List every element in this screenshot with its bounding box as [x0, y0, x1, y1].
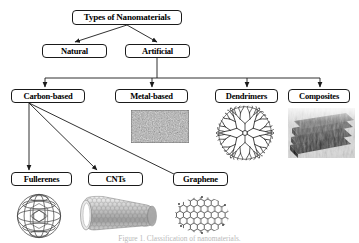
- node-label: Dendrimers: [226, 92, 267, 101]
- node-carbon-based[interactable]: Carbon-based: [11, 89, 85, 103]
- node-types-of-nanomaterials[interactable]: Types of Nanomaterials: [72, 10, 182, 25]
- graphene-sheet-image: [173, 193, 231, 237]
- node-dendrimers[interactable]: Dendrimers: [215, 89, 278, 103]
- node-natural[interactable]: Natural: [42, 44, 107, 58]
- node-graphene[interactable]: Graphene: [173, 172, 228, 186]
- node-label: Types of Nanomaterials: [84, 13, 170, 22]
- node-metal-based[interactable]: Metal-based: [115, 89, 188, 103]
- node-label: CNTs: [106, 175, 126, 184]
- node-artificial[interactable]: Artificial: [125, 44, 190, 58]
- node-label: Graphene: [183, 175, 218, 184]
- node-fullerenes[interactable]: Fullerenes: [11, 172, 72, 186]
- dendrimer-tree-image: [216, 105, 274, 161]
- fullerene-c60-image: [15, 192, 63, 240]
- node-composites[interactable]: Composites: [288, 89, 350, 103]
- metal-nanoparticle-texture-image: [131, 110, 189, 143]
- node-label: Artificial: [142, 47, 173, 56]
- nanomaterials-classification-figure: Types of Nanomaterials Natural Artificia…: [0, 0, 359, 243]
- node-cnts[interactable]: CNTs: [88, 172, 143, 186]
- node-label: Metal-based: [130, 92, 173, 101]
- node-label: Carbon-based: [23, 92, 72, 101]
- carbon-nanotube-image: [72, 194, 160, 238]
- node-label: Natural: [61, 47, 88, 56]
- node-label: Composites: [299, 92, 339, 101]
- node-label: Fullerenes: [24, 175, 60, 184]
- composite-layers-image: [288, 108, 355, 158]
